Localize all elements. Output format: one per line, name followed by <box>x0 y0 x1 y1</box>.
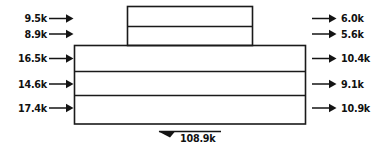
output-arrow-lower-row-1: 10.4k <box>312 53 371 64</box>
input-arrow-head-upper-row-2 <box>66 30 74 39</box>
lower-block-outline <box>75 46 306 125</box>
input-arrow-head-lower-row-1 <box>66 54 74 63</box>
output-arrow-head-lower-row-2 <box>329 80 337 89</box>
output-label-upper-row-2: 5.6k <box>341 29 364 40</box>
input-arrow-lower-row-1: 16.5k <box>18 53 74 64</box>
output-arrow-upper-row-1: 6.0k <box>312 13 364 24</box>
total-flow-label: 108.9k <box>180 133 216 144</box>
output-label-lower-row-1: 10.4k <box>341 53 371 64</box>
input-arrow-head-upper-row-1 <box>66 14 74 23</box>
input-label-lower-row-3: 17.4k <box>18 103 48 114</box>
output-arrow-head-upper-row-1 <box>329 14 337 23</box>
total-flow-arrow: 108.9k <box>159 132 222 145</box>
output-arrow-lower-row-2: 9.1k <box>312 79 364 90</box>
output-arrow-lower-row-3: 10.9k <box>312 103 371 114</box>
input-arrow-head-lower-row-3 <box>66 104 74 113</box>
input-label-upper-row-1: 9.5k <box>24 13 47 24</box>
upper-block <box>128 7 253 46</box>
output-arrow-head-upper-row-2 <box>329 30 337 39</box>
flow-diagram-svg: 9.5k 8.9k 16.5k 14.6k 17.4k <box>0 0 378 150</box>
input-arrow-upper-row-2: 8.9k <box>24 29 73 40</box>
output-arrow-head-lower-row-3 <box>329 104 337 113</box>
input-label-upper-row-2: 8.9k <box>24 29 47 40</box>
output-label-lower-row-2: 9.1k <box>341 79 364 90</box>
flow-diagram-canvas: 9.5k 8.9k 16.5k 14.6k 17.4k <box>0 0 378 150</box>
output-arrow-head-lower-row-1 <box>329 54 337 63</box>
output-arrow-upper-row-2: 5.6k <box>312 29 364 40</box>
input-label-lower-row-2: 14.6k <box>18 79 48 90</box>
input-arrow-lower-row-2: 14.6k <box>18 79 74 90</box>
output-label-lower-row-3: 10.9k <box>341 103 371 114</box>
total-arrow-head-left-icon <box>159 132 176 138</box>
input-arrow-lower-row-3: 17.4k <box>18 103 74 114</box>
input-arrow-head-lower-row-2 <box>66 80 74 89</box>
input-arrow-upper-row-1: 9.5k <box>24 13 73 24</box>
lower-block <box>75 46 306 125</box>
output-label-upper-row-1: 6.0k <box>341 13 364 24</box>
input-label-lower-row-1: 16.5k <box>18 53 48 64</box>
